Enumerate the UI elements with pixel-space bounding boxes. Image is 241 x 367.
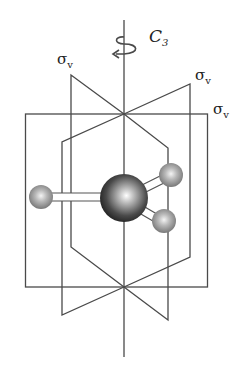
central-atom — [100, 174, 148, 222]
symmetry-diagram — [0, 0, 241, 367]
c3-label: C3 — [149, 28, 168, 48]
outer-atom-upper-right — [159, 163, 183, 187]
outer-atom-lower-right — [152, 209, 176, 233]
sigma-v-label-3: σv — [213, 102, 229, 120]
sigma-v-label-2: σv — [195, 68, 211, 86]
outer-atom-left — [29, 185, 53, 209]
rotation-arrow-icon — [116, 37, 136, 54]
sigma-v-label-1: σv — [57, 52, 73, 70]
